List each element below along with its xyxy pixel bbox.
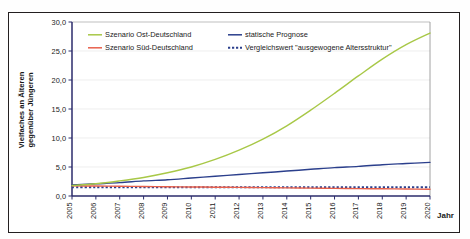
y-tick-label-25: 25,0	[52, 47, 66, 56]
x-tick-label-2009: 2009	[160, 203, 169, 219]
x-tick-label-2012: 2012	[232, 203, 241, 219]
x-tick-label-2013: 2013	[256, 203, 265, 219]
x-tick-label-2005: 2005	[65, 203, 74, 219]
x-tick-label-2019: 2019	[399, 203, 408, 219]
x-tick-label-2015: 2015	[304, 203, 313, 219]
legend-label-2: statische Prognose	[245, 30, 308, 39]
x-axis-title: Jahr	[437, 211, 454, 220]
x-tick-label-2011: 2011	[208, 203, 217, 219]
y-tick-label-15: 15,0	[52, 105, 66, 114]
x-tick-label-2017: 2017	[351, 203, 360, 219]
x-tick-label-2008: 2008	[137, 203, 146, 219]
chart-canvas: 0,05,010,015,020,025,030,020052006200720…	[0, 0, 470, 239]
y-tick-label-30: 30,0	[52, 18, 66, 27]
y-tick-label-10: 10,0	[52, 134, 66, 143]
legend-label-3: Vergleichswert "ausgewogene Altersstrukt…	[245, 43, 392, 52]
y-tick-label-20: 20,0	[52, 76, 66, 85]
chart-screenshot: 0,05,010,015,020,025,030,020052006200720…	[0, 0, 470, 239]
legend-label-1: Szenario Süd-Deutschland	[105, 43, 193, 52]
x-tick-label-2006: 2006	[89, 203, 98, 219]
y-axis-title-line2: gegenüber Jüngeren	[26, 72, 35, 147]
x-tick-label-2010: 2010	[184, 203, 193, 219]
x-tick-label-2014: 2014	[280, 203, 289, 219]
y-tick-label-0: 0,0	[56, 192, 66, 201]
x-tick-label-2007: 2007	[113, 203, 122, 219]
y-axis-title-line1: Vielfaches an Älteren	[17, 71, 26, 148]
x-tick-label-2018: 2018	[375, 203, 384, 219]
y-tick-label-5: 5,0	[56, 163, 66, 172]
x-tick-label-2016: 2016	[328, 203, 337, 219]
x-tick-label-2020: 2020	[423, 203, 432, 219]
legend-label-0: Szenario Ost-Deutschland	[105, 30, 191, 39]
